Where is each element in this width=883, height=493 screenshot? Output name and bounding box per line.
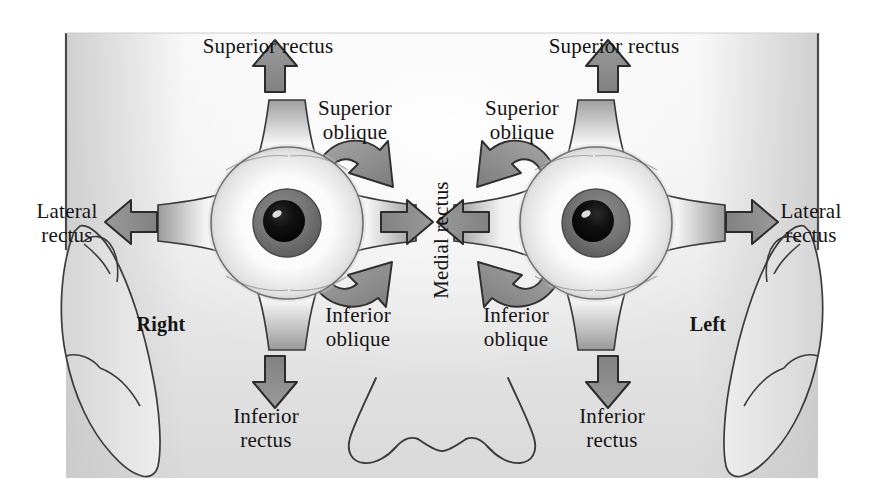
superior-oblique-label-left: Superior oblique	[452, 96, 592, 144]
inferior-rectus-label-left: Inferior rectus	[546, 404, 678, 452]
inferior-oblique-label-right: Inferior oblique	[292, 303, 424, 351]
left-side-label: Left	[648, 312, 768, 336]
inferior-oblique-label-left: Inferior oblique	[450, 303, 582, 351]
medial-rectus-label: Medial rectus	[429, 160, 453, 320]
superior-oblique-label-right: Superior oblique	[285, 96, 425, 144]
superior-rectus-label-right: Superior rectus	[130, 34, 406, 58]
lateral-rectus-label-right: Lateral rectus	[8, 199, 126, 247]
right-pupil	[263, 200, 305, 242]
left-pupil	[572, 200, 614, 242]
lateral-rectus-label-left: Lateral rectus	[752, 199, 870, 247]
figure-canvas: Superior rectus Superior oblique Lateral…	[0, 0, 883, 493]
superior-rectus-label-left: Superior rectus	[476, 34, 752, 58]
right-side-label: Right	[101, 312, 221, 336]
inferior-rectus-label-right: Inferior rectus	[200, 404, 332, 452]
